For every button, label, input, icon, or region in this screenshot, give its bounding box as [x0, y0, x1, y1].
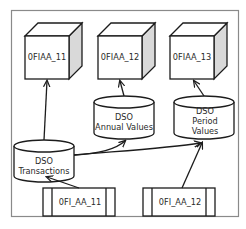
dso-label-line-1: DSO — [115, 112, 133, 122]
data-flow-diagram: 0FIAA_11 0FIAA_12 0FIAA_13 DSO Annual Va… — [0, 0, 246, 229]
cube-label: 0FIAA_11 — [28, 52, 66, 62]
infocube-0fiaa-12[interactable]: 0FIAA_12 — [98, 23, 155, 79]
infocube-0fiaa-13[interactable]: 0FIAA_13 — [170, 23, 227, 79]
cylinder-top — [94, 96, 154, 108]
cube-label: 0FIAA_12 — [101, 52, 139, 62]
cylinder-top — [14, 140, 74, 152]
dso-label-line-2: Period — [192, 116, 218, 126]
dso-transactions[interactable]: DSO Transactions — [14, 140, 74, 182]
cube-label: 0FIAA_13 — [173, 52, 211, 62]
datasource-label: 0FI_AA_12 — [159, 197, 201, 207]
dso-label-line-3: Values — [192, 126, 219, 136]
infocube-0fiaa-11[interactable]: 0FIAA_11 — [25, 23, 82, 79]
dso-label-line-1: DSO — [35, 156, 53, 166]
datasource-0fi-aa-11[interactable]: 0FI_AA_11 — [43, 188, 115, 216]
datasource-label: 0FI_AA_11 — [59, 197, 101, 207]
dso-annual-values[interactable]: DSO Annual Values — [94, 96, 154, 139]
dso-label-line-2: Annual Values — [95, 122, 153, 132]
dso-label-line-1: DSO — [196, 106, 214, 116]
dso-label-line-2: Transactions — [17, 166, 69, 176]
dso-period-values[interactable]: DSO Period Values — [174, 96, 234, 139]
datasource-0fi-aa-12[interactable]: 0FI_AA_12 — [143, 188, 215, 216]
